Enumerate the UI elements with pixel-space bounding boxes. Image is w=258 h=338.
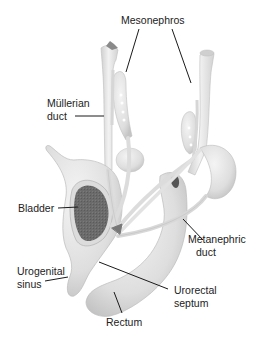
label-mullerian-duct-line1: Müllerian — [47, 97, 90, 109]
left-mesonephros — [112, 70, 132, 140]
kidney — [200, 145, 236, 198]
label-metanephric-duct-line1: Metanephric — [188, 233, 246, 245]
urogenital-diagram: Mesonephros Müllerian duct Bladder Metan… — [0, 0, 258, 338]
label-bladder: Bladder — [18, 202, 54, 214]
label-urorectal-septum-line1: Urorectal — [174, 284, 217, 296]
label-mesonephros: Mesonephros — [121, 14, 185, 26]
leader-mesonephros-right — [172, 29, 191, 83]
label-rectum: Rectum — [106, 316, 142, 328]
right-mesonephros — [181, 100, 197, 160]
label-metanephric-duct-line2: duct — [196, 246, 216, 258]
label-urogenital-sinus-line1: Urogenital — [17, 265, 65, 277]
label-urogenital-sinus-line2: sinus — [17, 278, 42, 290]
leader-mesonephros-left — [126, 29, 139, 72]
leader-urogenital-sinus — [45, 277, 68, 281]
label-mullerian-duct-line2: duct — [47, 110, 67, 122]
label-urorectal-septum-line2: septum — [174, 297, 208, 309]
